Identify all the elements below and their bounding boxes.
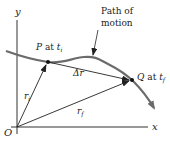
path-label-line2: motion (101, 19, 133, 28)
vector-r-initial (17, 65, 46, 127)
point-p-name: P (36, 42, 42, 52)
point-q-at: at (147, 72, 156, 82)
point-p-time-sub: i (60, 46, 62, 53)
point-q-dot (130, 78, 134, 82)
r-initial-sub: i (28, 95, 30, 102)
path-label-line1: Path of (101, 7, 133, 16)
vector-r-final (17, 81, 129, 127)
point-p-dot (46, 60, 50, 64)
point-q-name: Q (137, 72, 144, 82)
path-label-pointer (93, 30, 98, 55)
r-final-label: rf (77, 107, 84, 117)
vector-delta-r (48, 62, 129, 80)
origin-label: O (4, 128, 12, 138)
point-q-time-sub: f (163, 76, 165, 83)
y-axis-label: y (15, 7, 21, 17)
r-final-sub: f (81, 110, 83, 117)
motion-diagram: y x O Path of motion P at ti Q at tf Δr … (0, 0, 170, 147)
r-initial-label: ri (24, 92, 30, 102)
point-q-label: Q at tf (137, 73, 165, 83)
point-p-label: P at ti (36, 43, 62, 53)
x-axis-label: x (152, 122, 158, 132)
delta-r-label: Δr (73, 69, 84, 78)
point-p-at: at (45, 42, 54, 52)
